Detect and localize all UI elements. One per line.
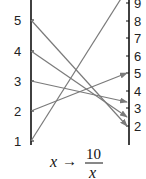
left-tick-label: 1 bbox=[14, 134, 21, 149]
left-tick-label: 4 bbox=[14, 44, 21, 59]
right-tick-label: 5 bbox=[134, 66, 141, 81]
left-tick-label: 2 bbox=[14, 104, 21, 119]
right-tick-label: 9 bbox=[134, 0, 141, 11]
right-tick-label: 2 bbox=[134, 119, 141, 134]
left-tick-label: 3 bbox=[14, 74, 21, 89]
right-tick-label: 7 bbox=[134, 31, 141, 46]
right-tick-label: 6 bbox=[134, 49, 141, 64]
formula-numerator: 10 bbox=[86, 146, 101, 162]
mapping-diagram: 5 4 3 2 1 9 8 7 6 5 4 3 2 x → 10 bbox=[0, 0, 146, 179]
right-tick-label: 8 bbox=[134, 14, 141, 29]
formula-variable: x bbox=[49, 153, 57, 170]
mapping-arrows bbox=[31, 0, 129, 141]
formula-arrow: → bbox=[62, 153, 77, 169]
right-tick-label: 4 bbox=[134, 84, 141, 99]
formula: x → 10 x bbox=[49, 146, 103, 179]
right-axis: 9 8 7 6 5 4 3 2 bbox=[126, 0, 141, 145]
left-tick-label: 5 bbox=[14, 13, 21, 28]
formula-denominator: x bbox=[88, 164, 96, 179]
left-axis: 5 4 3 2 1 bbox=[14, 0, 34, 149]
right-tick-label: 3 bbox=[134, 101, 141, 116]
arrow-5-to-2 bbox=[31, 20, 127, 126]
arrow-1-to-10 bbox=[31, 0, 129, 141]
